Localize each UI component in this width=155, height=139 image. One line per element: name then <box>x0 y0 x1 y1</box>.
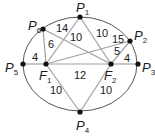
edge-length-label: 5 <box>114 45 120 57</box>
point-label-P4: P4 <box>76 118 90 135</box>
edge-P6-F1 <box>43 29 46 64</box>
point-P1 <box>77 14 82 19</box>
edge-length-label: 10 <box>50 84 62 96</box>
point-label-P2: P2 <box>134 28 148 45</box>
point-label-F2: F2 <box>104 68 117 85</box>
edge-length-label: 4 <box>124 52 130 64</box>
point-P5 <box>20 61 25 66</box>
edge-length-label: 12 <box>74 69 86 81</box>
point-F1 <box>43 61 48 66</box>
edge-P1-F2 <box>80 17 111 64</box>
edge-length-label: 15 <box>112 33 124 45</box>
edge-length-label: 10 <box>100 84 112 96</box>
point-label-P6: P6 <box>28 18 42 35</box>
edge-length-label: 6 <box>48 38 54 50</box>
point-labels-group: P1P2P3P4P5P6F1F2 <box>5 0 155 135</box>
point-P3 <box>135 61 140 66</box>
point-label-P1: P1 <box>76 0 90 17</box>
edge-length-label: 10 <box>96 27 108 39</box>
edge-length-label: 10 <box>70 31 82 43</box>
edge-length-label: 4 <box>32 51 38 63</box>
edge-length-label: 14 <box>56 22 68 34</box>
ellipse-foci-diagram: 412461410101551010 P1P2P3P4P5P6F1F2 <box>0 0 155 139</box>
point-P2 <box>127 38 132 43</box>
point-P4 <box>77 109 82 114</box>
point-label-P3: P3 <box>142 60 155 77</box>
point-P6 <box>40 26 45 31</box>
point-label-P5: P5 <box>5 60 19 77</box>
point-F2 <box>108 61 113 66</box>
